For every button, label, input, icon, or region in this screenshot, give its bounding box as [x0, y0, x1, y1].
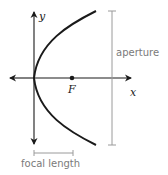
focal-length-label: focal length [21, 158, 80, 169]
x-axis-label: x [130, 86, 137, 99]
focal-length-bracket [34, 150, 73, 156]
focus-point [70, 76, 75, 81]
parabola-diagram: y x F aperture focal length [0, 0, 168, 175]
focus-label: F [67, 83, 76, 96]
y-axis-label: y [38, 10, 46, 23]
aperture-label: aperture [116, 47, 159, 58]
